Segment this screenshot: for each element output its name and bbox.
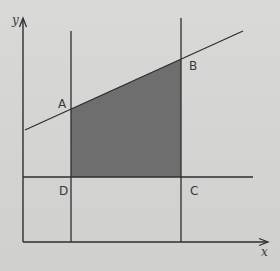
shaded-region-abcd: [71, 59, 181, 177]
point-label-b: B: [189, 60, 197, 72]
diagram-graphic: [0, 0, 280, 271]
x-axis-label: x: [261, 246, 268, 258]
point-label-d: D: [59, 185, 68, 197]
diagram-canvas: y x A B C D: [0, 0, 280, 271]
y-axis-label: y: [12, 14, 19, 26]
point-label-a: A: [58, 98, 66, 110]
point-label-c: C: [190, 185, 198, 197]
